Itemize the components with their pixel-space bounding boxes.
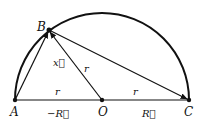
label-C: C [184, 105, 193, 119]
label-A: A [9, 105, 19, 119]
label-r-OC: r [133, 86, 139, 97]
label-neg-R: −R⃗ [47, 108, 69, 119]
label-R: R⃗ [141, 108, 156, 119]
label-r-OB: r [84, 63, 90, 74]
point-A-dot [13, 98, 17, 102]
label-B: B [36, 20, 46, 34]
semicircle-diagram: A B O C x⃗ r r r −R⃗ R⃗ [0, 0, 206, 124]
label-r-AO: r [55, 86, 61, 97]
point-C-dot [187, 98, 191, 102]
label-x-vector: x⃗ [53, 57, 65, 68]
point-O-dot [100, 98, 104, 102]
vector-AB [15, 32, 48, 100]
label-O: O [98, 105, 108, 119]
point-B-dot [47, 28, 52, 33]
